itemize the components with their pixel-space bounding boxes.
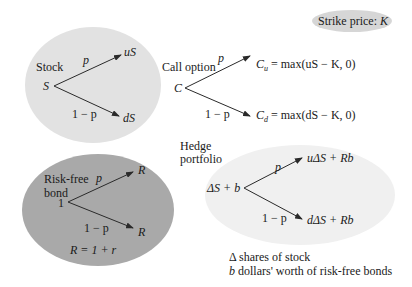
bond-relation: R = 1 + r (70, 243, 116, 257)
bond-down-prob: 1 − p (84, 221, 109, 235)
stock-up-prob: p (83, 53, 89, 67)
stock-down-prob: 1 − p (72, 107, 97, 121)
stock-root: S (43, 79, 49, 93)
hedge-up-value: uΔS + Rb (307, 151, 353, 165)
hedge-down-value: dΔS + Rb (307, 213, 353, 227)
call-down-var: C (256, 108, 264, 122)
hedge-down-prob: 1 − p (262, 211, 287, 225)
legend-b: b dollars' worth of risk-free bonds (229, 264, 392, 278)
bond-root: 1 (58, 196, 64, 210)
legend-b-text: dollars' worth of risk-free bonds (235, 264, 392, 278)
call-up-prob: p (218, 51, 224, 65)
bond-up-value: R (138, 163, 145, 177)
call-up-payoff: Cu = max(uS − K, 0) (256, 57, 356, 71)
call-title: Call option (162, 60, 216, 74)
call-down-payoff: Cd = max(dS − K, 0) (256, 108, 356, 122)
stock-up-value: uS (124, 45, 136, 59)
stock-down-value: dS (123, 111, 135, 125)
stock-title: Stock (36, 60, 63, 74)
strike-price-badge: Strike price: K (318, 14, 388, 28)
hedge-up-prob: p (275, 160, 281, 174)
strike-var: K (380, 14, 388, 28)
call-down-expr: = max(dS − K, 0) (268, 108, 356, 122)
strike-label: Strike price: (318, 14, 380, 28)
hedge-title-line1: Hedge (180, 139, 211, 153)
call-up-expr: = max(uS − K, 0) (268, 57, 356, 71)
call-root: C (174, 81, 182, 95)
bond-title-line2: bond (44, 186, 68, 200)
hedge-title-line2: portfolio (180, 152, 222, 166)
call-up-var: C (256, 57, 264, 71)
bond-up-prob: p (96, 171, 102, 185)
bond-title-line1: Risk-free (44, 172, 89, 186)
hedge-root: ΔS + b (207, 181, 240, 195)
bond-down-value: R (138, 225, 145, 239)
hedge-ellipse (205, 145, 395, 245)
legend-delta: Δ shares of stock (229, 250, 310, 264)
call-down-prob: 1 − p (205, 107, 230, 121)
